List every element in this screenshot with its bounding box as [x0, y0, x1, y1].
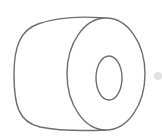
- roll-front-face: [67, 18, 145, 130]
- roll-icon: [0, 0, 162, 140]
- roll-illustration: Line drawing of a cylindrical roll (e.g.…: [0, 0, 162, 140]
- gray-dot: [154, 72, 162, 80]
